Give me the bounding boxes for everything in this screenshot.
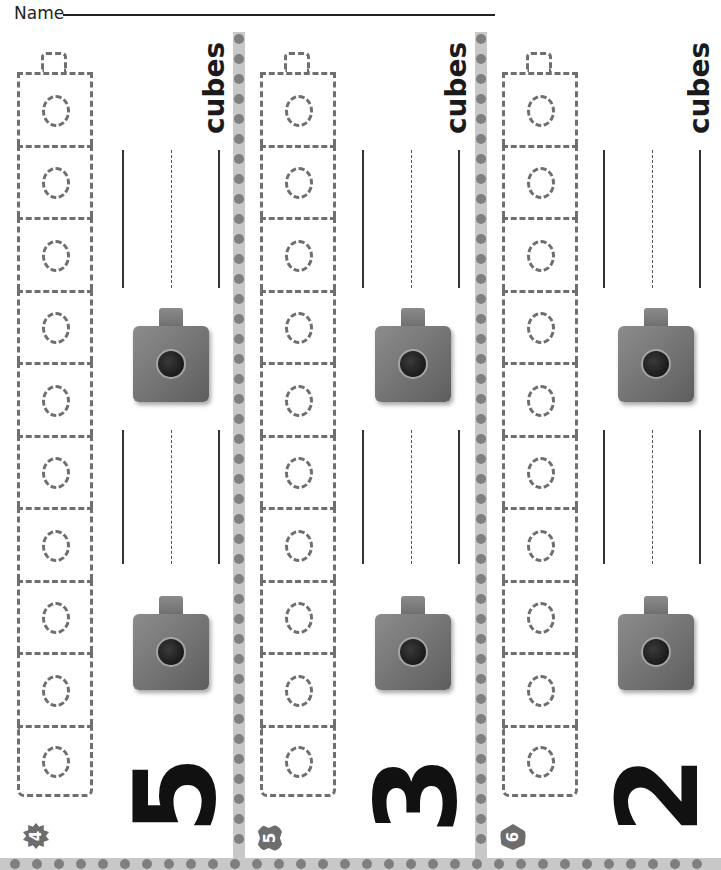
tower-cube xyxy=(260,217,336,290)
tower-cube xyxy=(502,507,578,580)
cube-icon xyxy=(133,596,209,692)
tower-cube xyxy=(502,652,578,725)
name-label: Name xyxy=(14,4,64,22)
problem-number-badge: 6 xyxy=(500,824,526,850)
cubes-label: cubes xyxy=(198,42,231,134)
tower-cube xyxy=(502,580,578,653)
tower-cube xyxy=(17,362,93,435)
cube-icon xyxy=(375,308,451,404)
given-number: 5 xyxy=(120,740,230,850)
tower-cube xyxy=(260,72,336,145)
cubes-label: cubes xyxy=(683,42,716,134)
tower-cube xyxy=(17,145,93,218)
tower-cube xyxy=(260,507,336,580)
tower-cube xyxy=(260,652,336,725)
tower-nub xyxy=(284,52,310,72)
tower-nub xyxy=(526,52,552,72)
tower-cube xyxy=(17,217,93,290)
tower-cube xyxy=(260,362,336,435)
problem-panel-5: cubes 3 5 xyxy=(243,30,480,860)
problem-panel-6: cubes 2 6 xyxy=(485,30,721,860)
tower-cube xyxy=(502,145,578,218)
tower-cube xyxy=(260,580,336,653)
answer-writing-lines-bottom[interactable] xyxy=(122,430,222,564)
tower-cube xyxy=(17,580,93,653)
cube-icon xyxy=(133,308,209,404)
cube-icon xyxy=(618,308,694,404)
dashed-cube-tower xyxy=(260,72,336,797)
cubes-label: cubes xyxy=(440,42,473,134)
answer-writing-lines-bottom[interactable] xyxy=(362,430,462,564)
problem-number-badge: 4 xyxy=(23,823,49,849)
given-number: 2 xyxy=(603,740,713,850)
dashed-cube-tower xyxy=(17,72,93,797)
cube-icon xyxy=(375,596,451,692)
tower-cube xyxy=(502,290,578,363)
cube-icon xyxy=(618,596,694,692)
tower-cube xyxy=(260,435,336,508)
answer-writing-lines-top[interactable] xyxy=(362,150,462,288)
given-number: 3 xyxy=(361,740,471,850)
name-input-line[interactable] xyxy=(63,14,495,16)
answer-writing-lines-top[interactable] xyxy=(122,150,222,288)
problem-number-badge: 5 xyxy=(257,825,283,851)
tower-cube xyxy=(502,362,578,435)
tower-cube xyxy=(17,72,93,145)
tower-cube xyxy=(17,290,93,363)
tower-cube xyxy=(17,652,93,725)
name-row: Name xyxy=(14,0,64,22)
tower-cube xyxy=(502,435,578,508)
tower-cube xyxy=(502,72,578,145)
problem-panel-4: cubes 5 4 xyxy=(0,30,238,860)
tower-cube xyxy=(17,507,93,580)
tower-nub xyxy=(41,52,67,72)
tower-cube xyxy=(17,725,93,798)
dashed-cube-tower xyxy=(502,72,578,797)
tower-cube xyxy=(260,290,336,363)
tower-cube xyxy=(502,725,578,798)
answer-writing-lines-top[interactable] xyxy=(603,150,703,288)
bottom-dotted-border xyxy=(0,858,721,870)
tower-cube xyxy=(260,145,336,218)
tower-cube xyxy=(17,435,93,508)
tower-cube xyxy=(502,217,578,290)
tower-cube xyxy=(260,725,336,798)
answer-writing-lines-bottom[interactable] xyxy=(603,430,703,564)
